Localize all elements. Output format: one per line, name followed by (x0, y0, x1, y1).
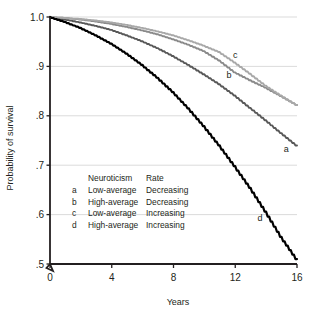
x-tick-label: 8 (171, 272, 177, 283)
legend-rate-a: Decreasing (146, 185, 189, 195)
legend-key-b: b (72, 197, 77, 207)
survival-chart: .5.6.7.8.91.0 0481216 abcd NeuroticismRa… (0, 0, 310, 312)
legend-header-neuroticism: Neuroticism (88, 173, 132, 183)
legend-neuroticism-b: High-average (88, 197, 139, 207)
legend-key-c: c (72, 208, 76, 218)
x-tick-label: 16 (291, 272, 303, 283)
x-tick-label: 4 (109, 272, 115, 283)
legend-header-rate: Rate (146, 173, 164, 183)
x-tick-label: 12 (230, 272, 242, 283)
y-tick-label: .9 (36, 61, 45, 72)
x-axis-title: Years (167, 297, 190, 307)
legend-neuroticism-d: High-average (88, 220, 139, 230)
legend-key-a: a (72, 185, 77, 195)
legend-rate-d: Increasing (146, 220, 185, 230)
legend-rate-b: Decreasing (146, 197, 189, 207)
y-axis-title: Probability of survival (5, 105, 15, 190)
y-tick-label: .6 (36, 209, 45, 220)
legend-rate-c: Increasing (146, 208, 185, 218)
y-tick-label: .8 (36, 110, 45, 121)
x-tick-label: 0 (47, 272, 53, 283)
y-tick-label: .5 (36, 259, 45, 270)
y-tick-label: 1.0 (30, 12, 44, 23)
curve-label-c: c (233, 50, 238, 60)
legend-neuroticism-a: Low-average (88, 185, 137, 195)
curve-label-b: b (227, 70, 232, 80)
curve-label-d: d (257, 213, 262, 223)
curve-label-a: a (284, 144, 289, 154)
legend-neuroticism-c: Low-average (88, 208, 137, 218)
legend-key-d: d (72, 220, 77, 230)
y-tick-label: .7 (36, 160, 45, 171)
